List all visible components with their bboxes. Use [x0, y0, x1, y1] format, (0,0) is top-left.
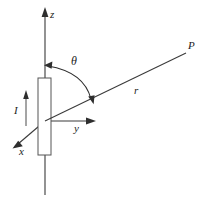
antenna-element-rect	[38, 78, 51, 155]
z-axis-arrowhead-icon	[42, 7, 49, 17]
current-label: I	[14, 105, 18, 116]
theta-arc	[48, 66, 91, 99]
y-axis-arrowhead-icon	[86, 118, 96, 125]
diagram-svg	[0, 0, 204, 204]
radius-label: r	[134, 85, 138, 96]
x-axis-label: x	[19, 146, 24, 157]
point-p-label: P	[188, 40, 195, 51]
z-axis-label: z	[50, 9, 54, 20]
theta-angle-label: θ	[71, 55, 77, 67]
radial-ray-line	[45, 53, 186, 121]
y-axis-label: y	[74, 123, 79, 134]
current-arrowhead-icon	[23, 90, 29, 99]
figure-canvas: z P θ r y I x	[0, 0, 204, 204]
